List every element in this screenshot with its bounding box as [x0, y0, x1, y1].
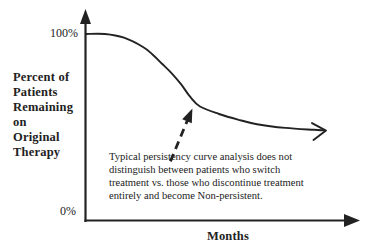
- annotation-text: Typical persistency curve analysis does …: [109, 150, 304, 202]
- x-axis-arrowhead-icon: [344, 214, 360, 227]
- annotation-line: entirely and become Non-persistent.: [109, 189, 304, 202]
- annotation-line: Typical persistency curve analysis does …: [109, 150, 304, 163]
- y-tick-0: 0%: [48, 204, 76, 219]
- y-axis-title-line: Percent of: [13, 70, 73, 85]
- y-axis-title: Percent of Patients Remaining on Origina…: [13, 70, 73, 160]
- annotation-line: distinguish between patients who switch: [109, 163, 304, 176]
- y-axis-title-line: Remaining: [13, 100, 73, 115]
- y-axis-title-line: on: [13, 115, 73, 130]
- y-tick-100: 100%: [44, 26, 78, 41]
- annotation-arrowhead-icon: [182, 108, 192, 123]
- y-axis-title-line: Original: [13, 130, 73, 145]
- y-axis-title-line: Patients: [13, 85, 73, 100]
- curve-end-arrowhead-icon: [312, 123, 326, 140]
- x-axis-title: Months: [178, 229, 278, 244]
- y-axis-title-line: Therapy: [13, 145, 73, 160]
- persistency-curve: [86, 34, 324, 131]
- persistency-curve-figure: 100% Percent of Patients Remaining on Or…: [0, 0, 376, 249]
- y-axis-arrowhead-icon: [80, 9, 91, 24]
- annotation-line: treatment vs. those who discontinue trea…: [109, 176, 304, 189]
